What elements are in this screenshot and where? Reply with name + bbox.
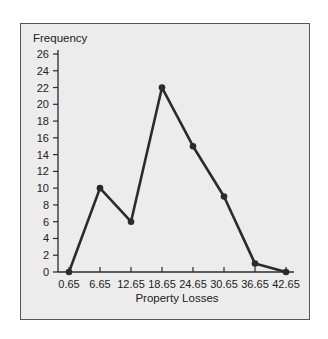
y-tick-label: 2 [43,249,49,261]
x-tick-label: 18.65 [148,278,176,290]
y-tick-label: 14 [37,149,49,161]
y-tick-label: 18 [37,115,49,127]
data-point [283,269,290,276]
y-tick-label: 10 [37,182,49,194]
y-tick-label: 20 [37,98,49,110]
y-tick-label: 12 [37,165,49,177]
y-tick-label: 8 [43,199,49,211]
series-line [69,88,286,272]
y-tick-label: 6 [43,216,49,228]
data-point [128,218,135,225]
x-tick-label: 0.65 [58,278,79,290]
x-tick-label: 6.65 [89,278,110,290]
y-tick-label: 24 [37,65,49,77]
y-tick-label: 26 [37,48,49,60]
y-tick-label: 0 [43,266,49,278]
data-point [159,84,166,91]
y-axis: 02468101214161820222426 [37,48,58,278]
data-points [66,84,290,275]
y-axis-title: Frequency [33,32,88,44]
x-axis-title: Property Losses [135,292,218,304]
data-point [190,143,197,150]
x-axis: 0.656.6512.6518.6524.6530.6536.6542.65 [58,267,300,290]
data-point [97,185,104,192]
x-tick-label: 12.65 [117,278,145,290]
data-point [252,260,259,267]
data-point [66,269,73,276]
data-point [221,193,228,200]
frequency-polygon-chart: Frequency 02468101214161820222426 0.656.… [0,0,328,339]
y-tick-label: 16 [37,132,49,144]
x-tick-label: 36.65 [241,278,269,290]
y-tick-label: 22 [37,82,49,94]
x-tick-label: 30.65 [210,278,238,290]
y-tick-label: 4 [43,232,49,244]
x-tick-label: 42.65 [272,278,300,290]
x-tick-label: 24.65 [179,278,207,290]
